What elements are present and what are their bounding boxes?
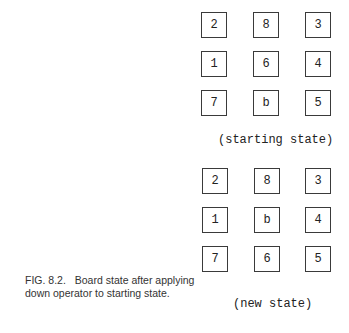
tile-r1c3: 3 [305, 12, 331, 38]
tile-r2c1: 1 [202, 207, 228, 233]
figure-caption: FIG. 8.2. Board state after applying dow… [25, 274, 197, 300]
tile-r3c1: 7 [201, 90, 227, 116]
figure-number: FIG. 8.2. [25, 274, 66, 286]
tile-r3c2: b [253, 90, 279, 116]
tile-r2c2: b [254, 207, 280, 233]
tile-r1c1: 2 [201, 12, 227, 38]
tile-r1c3: 3 [305, 168, 331, 194]
tile-r1c2: 8 [254, 168, 280, 194]
tile-r1c1: 2 [202, 168, 228, 194]
tile-r3c3: 5 [305, 246, 331, 272]
tile-r2c1: 1 [201, 51, 227, 77]
starting-state-label: (starting state) [218, 133, 333, 147]
tile-r2c3: 4 [305, 51, 331, 77]
tile-r3c2: 6 [254, 246, 280, 272]
tile-r3c3: 5 [305, 90, 331, 116]
tile-r2c3: 4 [305, 207, 331, 233]
new-state-label: (new state) [233, 297, 312, 311]
tile-r3c1: 7 [202, 246, 228, 272]
tile-r2c2: 6 [253, 51, 279, 77]
tile-r1c2: 8 [253, 12, 279, 38]
